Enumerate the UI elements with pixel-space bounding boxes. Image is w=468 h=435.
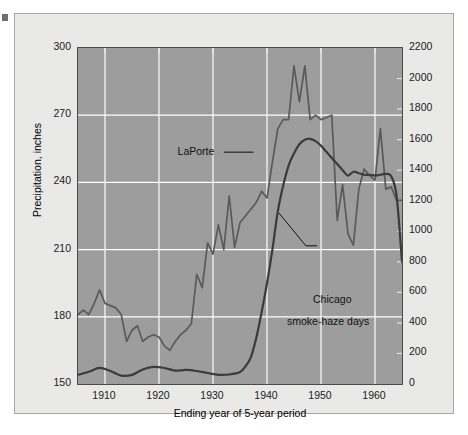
y2-axis-tick-label: 200	[409, 345, 453, 357]
y2-axis-tick-label: 2200	[409, 40, 453, 52]
y2-axis-tick-label: 0	[409, 376, 453, 388]
x-axis-tick-label: 1960	[354, 389, 394, 401]
annotation-laporte: LaPorte	[178, 145, 215, 157]
annotation-chicago-line2: smoke-haze days	[287, 315, 369, 327]
y2-axis-tick-label: 1000	[409, 223, 453, 235]
leader-line-chicago	[279, 213, 317, 246]
x-axis-tick-label: 1930	[192, 389, 232, 401]
y-axis-tick-label: 300	[31, 40, 71, 52]
y2-axis-tick-label: 1200	[409, 193, 453, 205]
y2-axis-tick-label: 2000	[409, 71, 453, 83]
y2-axis-tick-label: 1800	[409, 101, 453, 113]
plot-area: LaPorte Chicago smoke-haze days	[77, 47, 403, 385]
y-axis-tick-label: 180	[31, 309, 71, 321]
y-axis-tick-label: 150	[31, 376, 71, 388]
plot-svg	[78, 48, 402, 384]
chart-panel: 150 180 210 240 270 300 0 200 400 600 80…	[14, 13, 454, 414]
y2-axis-tick-label: 1400	[409, 162, 453, 174]
x-axis-tick-label: 1910	[84, 389, 124, 401]
y2-axis-tick-label: 1600	[409, 132, 453, 144]
x-axis-tick-label: 1950	[300, 389, 340, 401]
x-axis-tick-label: 1920	[138, 389, 178, 401]
series-line-laporte	[78, 66, 402, 350]
annotation-chicago-line1: Chicago	[313, 293, 352, 305]
y2-axis-tick-label: 800	[409, 254, 453, 266]
gridlines-group	[78, 48, 402, 384]
y-axis-title: Precipitation, inches	[31, 80, 43, 260]
top-tick-marks	[105, 48, 375, 53]
figure-container: 150 180 210 240 270 300 0 200 400 600 80…	[0, 0, 468, 435]
x-axis-tick-label: 1940	[246, 389, 286, 401]
x-axis-title: Ending year of 5-year period	[77, 407, 403, 419]
y2-axis-tick-label: 600	[409, 284, 453, 296]
edge-artifact-mark	[2, 14, 8, 21]
y2-axis-tick-label: 400	[409, 315, 453, 327]
